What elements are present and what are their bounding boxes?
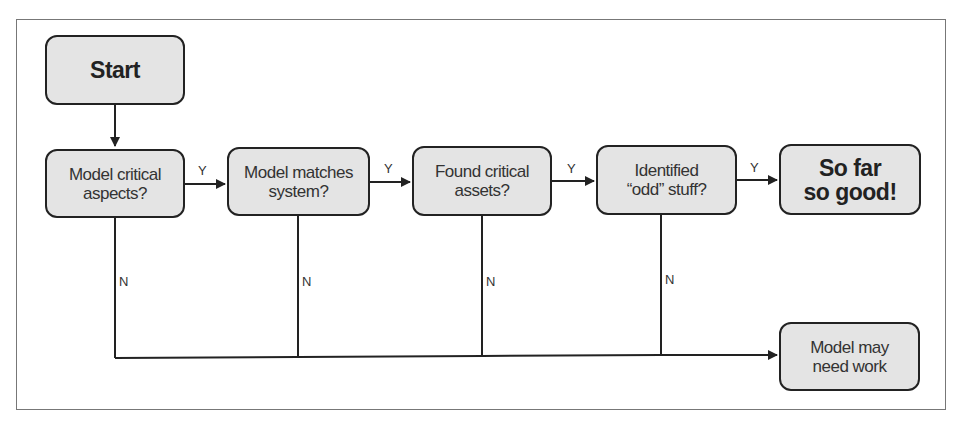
edge-label-no: N bbox=[665, 272, 674, 287]
edge-label-no: N bbox=[486, 274, 495, 289]
edge-label-yes: Y bbox=[198, 163, 207, 178]
decision-model-matches-system: Model matches system? bbox=[227, 147, 370, 216]
edge-label-yes: Y bbox=[750, 160, 759, 175]
edge-label-yes: Y bbox=[567, 161, 576, 176]
edge-label-no: N bbox=[119, 274, 128, 289]
edge-label-no: N bbox=[302, 274, 311, 289]
edge-label-yes: Y bbox=[384, 161, 393, 176]
decision-found-critical-assets: Found critical assets? bbox=[412, 146, 552, 216]
failure-node: Model may need work bbox=[779, 322, 920, 391]
decision-model-critical-aspects: Model critical aspects? bbox=[45, 149, 185, 218]
success-node: So far so good! bbox=[779, 144, 921, 215]
start-node: Start bbox=[45, 35, 185, 105]
decision-identified-odd-stuff: Identified “odd” stuff? bbox=[596, 145, 737, 215]
